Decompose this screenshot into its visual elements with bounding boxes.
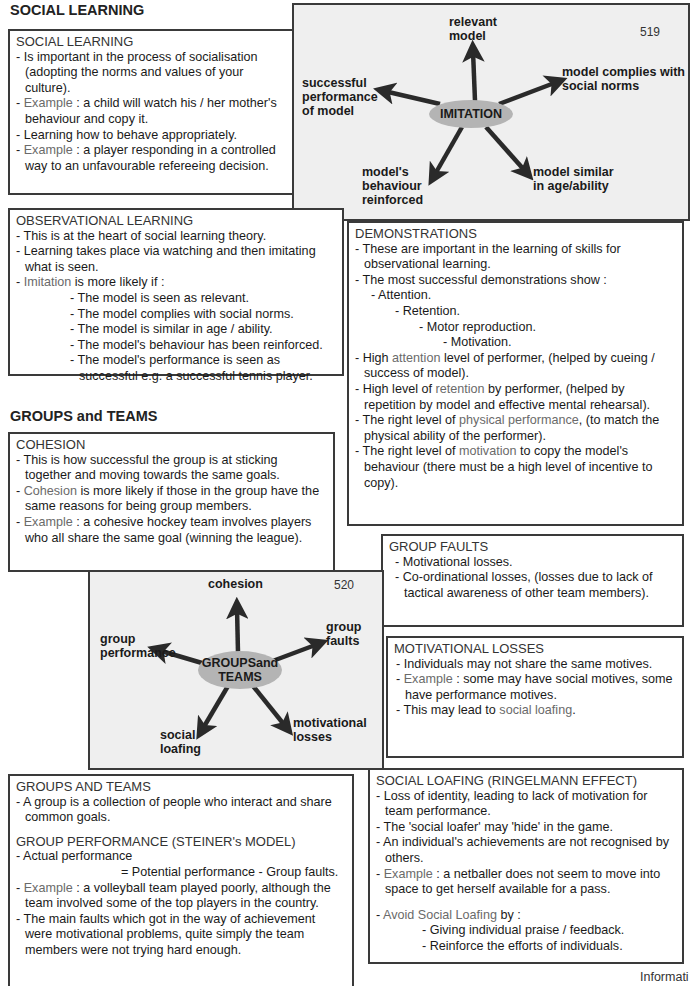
list-item: - Example : a volleyball team played poo… <box>16 881 346 912</box>
list-item: - Example : a child will watch his / her… <box>16 96 288 127</box>
social-loafing-box: SOCIAL LOAFING (RINGELMANN EFFECT) - Los… <box>368 768 684 964</box>
sub-item: - The model's behaviour has been reinfor… <box>70 338 336 354</box>
list-item: - Co-ordinational losses, (losses due to… <box>395 570 676 601</box>
list-item: - A group is a collection of people who … <box>16 795 346 826</box>
label-motivational-losses: motivational losses <box>293 716 383 744</box>
label-cohesion: cohesion <box>208 577 263 591</box>
list-item: - Learning how to behave appropriately. <box>16 128 288 144</box>
box-title: GROUPS AND TEAMS <box>16 779 346 795</box>
center-label: IMITATION <box>429 107 513 121</box>
label-relevant-model: relevant model <box>449 15 509 43</box>
step-motivation: - Motivation. <box>355 335 676 351</box>
sub-item: - Giving individual praise / feedback. <box>422 923 676 939</box>
list-item: - This is at the heart of social learnin… <box>16 229 336 245</box>
list-item: - High attention level of performer, (he… <box>355 351 676 382</box>
label-model-similar: model similar in age/ability <box>533 165 623 193</box>
list-item: - Avoid Social Loafing by : <box>376 908 676 924</box>
list-item: - These are important in the learning of… <box>355 242 676 273</box>
list-item: - An individual's achievements are not r… <box>376 835 676 866</box>
list-item: - This is how successful the group is at… <box>16 453 327 484</box>
label-model-complies: model complies with social norms <box>562 65 687 93</box>
list-item: - The right level of motivation to copy … <box>355 444 676 491</box>
label-group-faults: group faults <box>326 620 371 648</box>
motivational-losses-box: MOTIVATIONAL LOSSES - Individuals may no… <box>386 636 684 758</box>
box-title: SOCIAL LEARNING <box>16 34 288 50</box>
list-item: - Is important in the process of sociali… <box>16 50 288 97</box>
list-item: - Cohesion is more likely if those in th… <box>16 484 327 515</box>
box-title: DEMONSTRATIONS <box>355 226 676 242</box>
cohesion-box: COHESION - This is how successful the gr… <box>8 432 335 572</box>
list-item: - The most successful demonstrations sho… <box>355 273 676 289</box>
list-item: - Example : a cohesive hockey team invol… <box>16 515 327 546</box>
footer-text: Informati <box>640 970 689 984</box>
list-item: - The right level of physical performanc… <box>355 413 676 444</box>
list-item: - Example : a netballer does not seem to… <box>376 867 676 898</box>
social-learning-box: SOCIAL LEARNING - Is important in the pr… <box>8 29 296 195</box>
observational-learning-box: OBSERVATIONAL LEARNING - This is at the … <box>8 208 344 376</box>
groups-teams-diagram: GROUPSandTEAMS 520 cohesion group faults… <box>88 570 384 770</box>
list-item: - Loss of identity, leading to lack of m… <box>376 789 676 820</box>
formula-line-1: - Actual performance <box>16 849 346 865</box>
label-group-performance: group performance <box>100 632 190 660</box>
page-number: 520 <box>334 578 354 592</box>
list-item: - Learning takes place via watching and … <box>16 244 336 275</box>
list-item: - Motivational losses. <box>395 555 676 571</box>
box-title: MOTIVATIONAL LOSSES <box>394 641 676 657</box>
list-item: - Example : some may have social motives… <box>396 672 676 703</box>
heading-social-learning: SOCIAL LEARNING <box>10 2 144 18</box>
list-item: - Imitation is more likely if : <box>16 275 336 291</box>
list-item: - This may lead to social loafing. <box>396 703 676 719</box>
box-title: OBSERVATIONAL LEARNING <box>16 213 336 229</box>
step-retention: - Retention. <box>355 304 676 320</box>
formula-line-2: = Potential performance - Group faults. <box>16 865 346 881</box>
sub-item: - The model is seen as relevant. <box>70 291 336 307</box>
center-label: GROUPSandTEAMS <box>194 656 286 684</box>
sub-item: - The model complies with social norms. <box>70 307 336 323</box>
label-successful-performance: successful performance of model <box>302 76 388 118</box>
list-item: - The 'social loafer' may 'hide' in the … <box>376 820 676 836</box>
box-title: SOCIAL LOAFING (RINGELMANN EFFECT) <box>376 773 676 789</box>
box-title: GROUP FAULTS <box>389 539 676 555</box>
imitation-diagram: IMITATION 519 relevant model model compl… <box>292 3 690 221</box>
groups-and-teams-box: GROUPS AND TEAMS - A group is a collecti… <box>8 774 354 986</box>
step-motor-reproduction: - Motor reproduction. <box>355 320 676 336</box>
group-faults-box: GROUP FAULTS - Motivational losses. - Co… <box>381 534 684 627</box>
list-item: - The main faults which got in the way o… <box>16 912 346 959</box>
sub-item: - The model is similar in age / ability. <box>70 322 336 338</box>
list-item: - Example : a player responding in a con… <box>16 143 288 174</box>
sub-item: - Reinforce the efforts of individuals. <box>422 939 676 955</box>
list-item: - High level of retention by performer, … <box>355 382 676 413</box>
spacer <box>376 898 676 908</box>
step-attention: - Attention. <box>355 288 676 304</box>
heading-groups-teams: GROUPS and TEAMS <box>10 408 157 424</box>
box-title: COHESION <box>16 437 327 453</box>
subtitle-steiner-model: GROUP PERFORMANCE (STEINER's MODEL) <box>16 834 346 850</box>
list-item: - Individuals may not share the same mot… <box>396 657 676 673</box>
page-number: 519 <box>640 25 660 39</box>
spacer <box>16 826 346 834</box>
label-behaviour-reinforced: model's behaviour reinforced <box>362 165 434 207</box>
demonstrations-box: DEMONSTRATIONS - These are important in … <box>347 221 684 526</box>
label-social-loafing: social loafing <box>160 728 208 756</box>
sub-item: - The model's performance is seen as suc… <box>70 353 336 384</box>
